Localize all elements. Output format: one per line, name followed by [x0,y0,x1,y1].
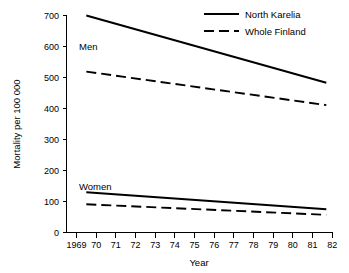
chart-canvas: 0 100 200 300 400 500 [0,0,349,273]
y-axis: 0 100 200 300 400 500 [11,11,67,238]
x-tick-label: 75 [189,240,199,250]
x-tick-label: 76 [209,240,219,250]
x-tick-group: 80 [288,233,298,251]
y-tick-label: 200 [44,166,59,176]
x-tick-label: 70 [91,240,101,250]
mortality-line-chart: 0 100 200 300 400 500 [0,0,349,273]
x-tick-label: 78 [248,240,258,250]
x-tick-group: 82 [327,233,337,251]
x-tick-group: 78 [248,233,258,251]
x-tick-group: 1969 [66,233,86,251]
x-tick-label: 81 [307,240,317,250]
y-tick-group: 400 [44,104,67,114]
y-tick-group: 100 [44,197,67,207]
x-tick-group: 77 [229,233,239,251]
x-tick-label: 72 [130,240,140,250]
y-tick-label: 500 [44,73,59,83]
y-tick-label: 700 [44,11,59,21]
annotation-men: Men [79,41,97,52]
series-line-men-whole-finland [86,72,326,105]
y-tick-group: 500 [44,73,67,83]
x-tick-label: 71 [111,240,121,250]
x-axis: 1969 70 71 72 73 74 [66,233,337,269]
x-tick-label: 82 [327,240,337,250]
x-tick-group: 71 [111,233,121,251]
x-tick-label: 73 [150,240,160,250]
x-tick-label: 74 [170,240,180,250]
y-tick-group: 600 [44,42,67,52]
x-tick-group: 75 [189,233,199,251]
y-tick-group: 300 [44,135,67,145]
y-tick-group: 0 [54,228,67,238]
y-tick-label: 600 [44,42,59,52]
y-tick-label: 300 [44,135,59,145]
x-tick-group: 79 [268,233,278,251]
x-tick-group: 76 [209,233,219,251]
legend-label-whole-finland: Whole Finland [245,26,306,37]
x-tick-label: 79 [268,240,278,250]
x-tick-group: 73 [150,233,160,251]
x-tick-label: 1969 [66,240,86,250]
annotations: Men Women [79,41,112,192]
annotation-women: Women [79,181,112,192]
y-tick-group: 700 [44,11,67,21]
legend-label-north-karelia: North Karelia [245,9,301,20]
y-tick-label: 400 [44,104,59,114]
x-tick-group: 74 [170,233,180,251]
x-tick-group: 72 [130,233,140,251]
legend-entry-north-karelia: North Karelia [204,9,301,20]
y-axis-title: Mortality per 100 000 [11,79,22,168]
legend-entry-whole-finland: Whole Finland [204,26,306,37]
x-tick-group: 81 [307,233,317,251]
x-tick-label: 80 [288,240,298,250]
y-tick-group: 200 [44,166,67,176]
y-tick-label: 0 [54,228,59,238]
x-tick-label: 77 [229,240,239,250]
series-group [86,16,326,215]
x-axis-title: Year [189,257,208,268]
x-tick-group: 70 [91,233,101,251]
y-tick-label: 100 [44,197,59,207]
legend: North Karelia Whole Finland [204,9,306,37]
